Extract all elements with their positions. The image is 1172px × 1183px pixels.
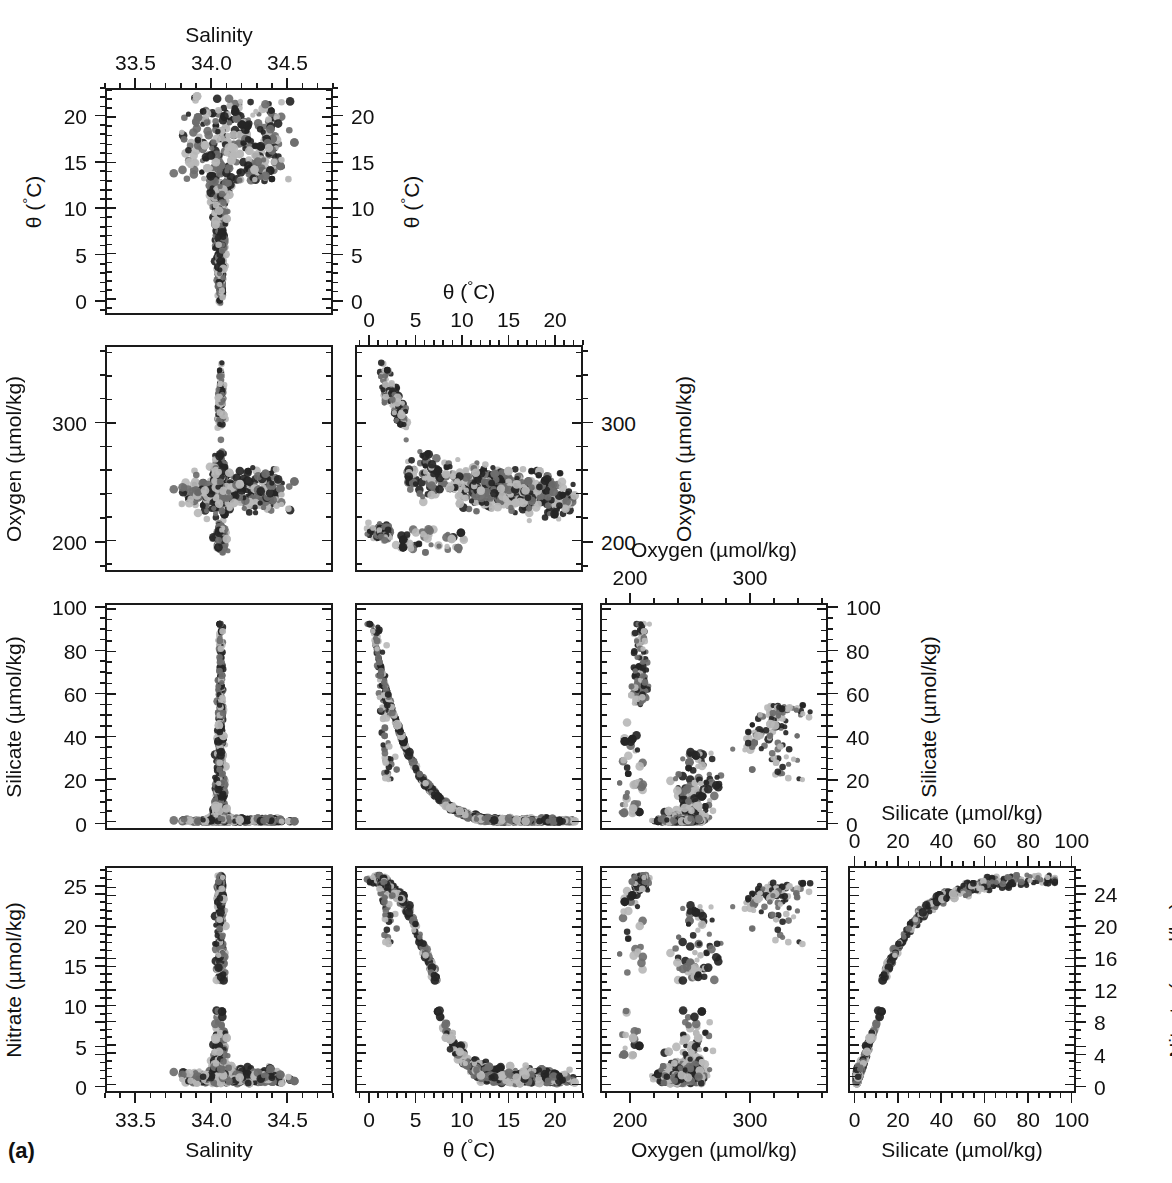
axis-title-bottom: Oxygen (µmol/kg) [631, 1139, 797, 1160]
axis-tick [602, 661, 607, 663]
axis-tick [576, 399, 581, 401]
axis-tick-outer [333, 254, 343, 256]
axis-tick [357, 757, 362, 759]
axis-tick [821, 918, 826, 920]
axis-tick [850, 989, 859, 991]
axis-tick-outer [1076, 989, 1086, 991]
axis-tick [357, 910, 362, 912]
axis-tick-outer [1016, 861, 1018, 866]
axis-tick [326, 942, 331, 944]
axis-tick-label: 0 [75, 291, 87, 312]
axis-tick-outer [1076, 1005, 1086, 1007]
axis-tick-outer [583, 374, 588, 376]
axis-tick [107, 298, 116, 300]
axis-tick-outer [165, 1093, 167, 1098]
axis-tick-outer [886, 861, 888, 866]
axis-tick [357, 714, 362, 716]
scatter-panel-silicate-vs-nitrate[interactable] [848, 866, 1076, 1093]
axis-tick [107, 244, 112, 246]
axis-tick [107, 942, 112, 944]
axis-tick [357, 422, 366, 424]
axis-tick-outer [452, 1093, 454, 1098]
axis-tick-label: 34.0 [191, 1109, 232, 1130]
axis-tick-outer [226, 1093, 228, 1098]
axis-tick [357, 640, 362, 642]
axis-tick [850, 1021, 859, 1023]
axis-tick-outer [828, 704, 833, 706]
scatter-panel-theta-vs-nitrate[interactable] [355, 866, 583, 1093]
axis-tick-outer [828, 801, 833, 803]
axis-tick-outer [100, 350, 105, 352]
axis-tick [326, 244, 331, 246]
scatter-panel-theta-vs-silicate[interactable] [355, 603, 583, 830]
axis-tick-outer [100, 272, 105, 274]
axis-tick [107, 608, 116, 610]
axis-tick-outer [271, 1093, 273, 1098]
axis-tick-outer [749, 1093, 751, 1103]
axis-tick-outer [333, 198, 338, 200]
axis-tick [850, 871, 855, 873]
axis-tick-outer [1076, 965, 1086, 967]
axis-tick-outer [100, 812, 105, 814]
axis-tick [107, 926, 116, 928]
axis-tick-outer [195, 1093, 197, 1098]
axis-tick [821, 934, 826, 936]
axis-tick-outer [1076, 941, 1081, 943]
scatter-panel-oxygen-vs-nitrate[interactable] [600, 866, 828, 1093]
axis-tick-outer [1060, 861, 1062, 866]
axis-tick-outer [489, 1093, 491, 1098]
axis-tick-outer [875, 861, 877, 866]
axis-tick [107, 307, 112, 309]
axis-tick [107, 98, 112, 100]
axis-tick-outer [333, 161, 343, 163]
axis-tick-label: 10 [351, 198, 374, 219]
axis-tick [322, 778, 331, 780]
axis-tick [576, 630, 581, 632]
axis-tick [1069, 871, 1074, 873]
axis-tick-label: 80 [1017, 830, 1040, 851]
axis-tick [602, 778, 611, 780]
axis-tick [326, 262, 331, 264]
scatter-panel-theta-vs-oxygen[interactable] [355, 345, 583, 572]
axis-tick [357, 895, 366, 897]
axis-tick-outer [95, 1054, 105, 1056]
inner-tick-group [107, 868, 331, 1091]
axis-tick [107, 918, 112, 920]
axis-tick-label: 200 [612, 567, 647, 588]
axis-tick-outer [134, 78, 136, 88]
axis-tick [107, 1068, 112, 1070]
axis-tick [357, 981, 362, 983]
axis-tick [576, 683, 581, 685]
axis-tick-label: 80 [64, 640, 87, 661]
axis-tick [576, 1076, 581, 1078]
scatter-panel-salinity-vs-oxygen[interactable] [105, 345, 333, 572]
scatter-panel-salinity-vs-silicate[interactable] [105, 603, 333, 830]
axis-tick-outer [1027, 856, 1029, 866]
axis-tick-outer [1076, 925, 1086, 927]
axis-tick-outer [368, 335, 370, 345]
axis-tick [107, 262, 112, 264]
axis-tick-label: 0 [849, 830, 861, 851]
axis-tick-label: 80 [1017, 1109, 1040, 1130]
scatter-panel-oxygen-vs-silicate[interactable] [600, 603, 828, 830]
axis-tick-outer [773, 1093, 775, 1098]
axis-tick-outer [725, 1093, 727, 1098]
axis-tick [357, 352, 362, 354]
axis-tick [602, 1029, 607, 1031]
axis-tick-outer [100, 997, 105, 999]
scatter-panel-salinity-vs-theta[interactable] [105, 88, 333, 315]
scatter-panel-salinity-vs-nitrate[interactable] [105, 866, 333, 1093]
axis-tick-outer [489, 340, 491, 345]
axis-tick [326, 271, 331, 273]
axis-tick [322, 422, 331, 424]
axis-tick [326, 235, 331, 237]
axis-tick-outer [583, 493, 588, 495]
axis-tick [602, 942, 607, 944]
axis-tick-outer [517, 1093, 519, 1098]
axis-tick [357, 540, 366, 542]
axis-tick [821, 619, 826, 621]
axis-tick [357, 1044, 366, 1046]
axis-tick-outer [433, 1093, 435, 1098]
axis-tick [326, 997, 331, 999]
axis-tick-label: 8 [1094, 1012, 1106, 1033]
